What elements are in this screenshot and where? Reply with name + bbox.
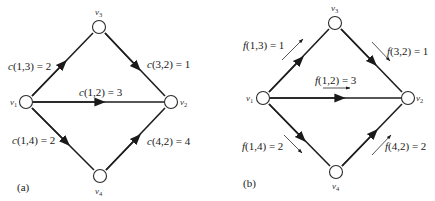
node-label-b-v3: v3 (331, 3, 338, 14)
node-label-a-v2: v2 (180, 97, 187, 108)
node-label-b-v2: v2 (416, 93, 423, 104)
node-b-v2 (402, 92, 415, 105)
node-label-a-v1: v1 (10, 97, 17, 108)
flow-arrow-1-4 (284, 135, 302, 153)
node-label-b-v4: v4 (332, 181, 340, 192)
node-a-v4 (94, 170, 107, 183)
panel-b-flow-network: v1 v2 v3 v4 f(1,3) = 1 f(3,2) = 1 f(1,2)… (242, 3, 428, 192)
panel-a-capacity-network: v1 v2 v3 v4 c(1,3) = 2 c(3,2) = 1 c(1,2)… (8, 7, 191, 197)
node-a-v3 (93, 21, 106, 34)
node-a-v1 (20, 96, 33, 109)
flow-label-4-2: f(4,2) = 2 (385, 140, 426, 153)
flow-label-1-3: f(1,3) = 1 (243, 39, 284, 52)
node-b-v3 (329, 17, 342, 30)
capacity-label-1-3: c(1,3) = 2 (8, 60, 51, 73)
flow-label-1-4: f(1,4) = 2 (242, 140, 283, 153)
capacity-label-1-2: c(1,2) = 3 (79, 86, 123, 99)
capacity-label-4-2: c(4,2) = 4 (147, 135, 191, 148)
flow-label-1-2: f(1,2) = 3 (315, 74, 357, 87)
capacity-label-1-4: c(1,4) = 2 (12, 134, 55, 147)
capacity-label-3-2: c(3,2) = 1 (147, 58, 190, 71)
panel-a-caption: (a) (17, 181, 30, 194)
node-b-v1 (257, 92, 270, 105)
node-a-v2 (165, 96, 178, 109)
network-flow-figure: v1 v2 v3 v4 c(1,3) = 2 c(3,2) = 1 c(1,2)… (0, 0, 435, 201)
edge-b-1-4 (269, 104, 330, 166)
panel-b-caption: (b) (243, 177, 256, 190)
node-b-v4 (330, 166, 343, 179)
flow-label-3-2: f(3,2) = 1 (387, 45, 428, 58)
flow-arrow-1-3 (282, 39, 303, 60)
node-label-b-v1: v1 (246, 93, 253, 104)
node-label-a-v3: v3 (95, 7, 102, 18)
node-label-a-v4: v4 (95, 186, 103, 197)
edge-b-4-2 (342, 104, 402, 166)
